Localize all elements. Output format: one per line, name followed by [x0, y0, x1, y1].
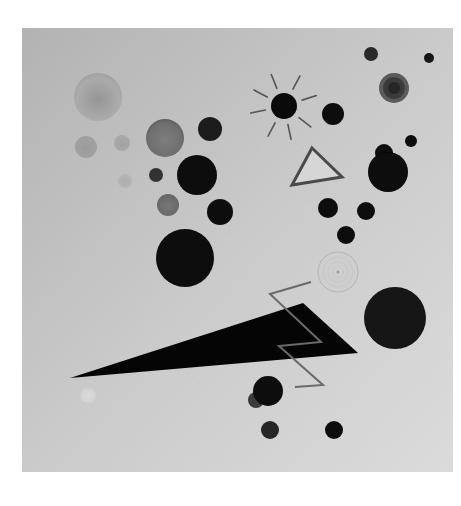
dark-circle-f: [318, 198, 338, 218]
gray-circle-mid: [157, 194, 179, 216]
dark-circle-c: [177, 155, 217, 195]
ringed-circle-inner: [388, 82, 400, 94]
gray-sphere: [146, 119, 184, 157]
dark-circle-top-1: [364, 47, 378, 61]
radial-circle-layer: [318, 252, 358, 292]
dark-circle-lower-right: [364, 287, 426, 349]
dark-circle-d: [207, 199, 233, 225]
dark-circle-g: [357, 202, 375, 220]
radial-center-dot: [337, 271, 340, 274]
dark-circle-h: [337, 226, 355, 244]
dark-circle-large: [156, 229, 214, 287]
dark-circle-bottom-left: [261, 421, 279, 439]
dark-circle-bottom-right: [325, 421, 343, 439]
gray-circle-left: [75, 136, 97, 158]
artwork-stage: [0, 0, 461, 506]
dark-circle-small-right: [405, 135, 417, 147]
faded-large-circle: [74, 73, 122, 121]
ringed-circle-layer: [379, 73, 409, 103]
dark-circle-a: [198, 117, 222, 141]
faint-circle: [118, 174, 132, 188]
dark-circle-b: [149, 168, 163, 182]
dark-circle-right-big: [368, 152, 408, 192]
sun-core: [271, 93, 297, 119]
dark-circle-top-2: [424, 53, 434, 63]
abstract-composition: [0, 0, 461, 506]
gray-circle-small: [114, 135, 130, 151]
faint-white-circle: [80, 387, 96, 403]
dark-circle-e: [322, 103, 344, 125]
dark-circle-bottom: [253, 376, 283, 406]
